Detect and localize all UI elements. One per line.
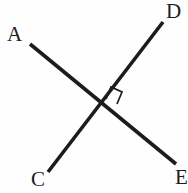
figure-canvas [0,0,188,193]
vertex-label-c: C [31,169,45,190]
segment-AE [30,44,176,164]
vertex-label-e: E [175,167,188,188]
geometry-figure: A D C E [0,0,188,193]
segment-CD [48,22,163,172]
vertex-label-a: A [7,24,22,45]
vertex-label-d: D [166,1,181,22]
